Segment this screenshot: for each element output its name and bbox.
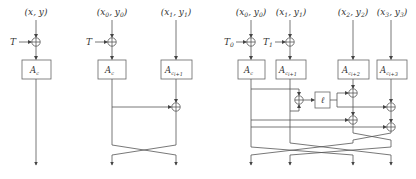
- xor-icon: [387, 123, 395, 131]
- input-label-x0y0: (x0, y0): [236, 7, 267, 18]
- linear-mix-label: ℓ: [321, 95, 325, 105]
- diagram-single-branch: (x, y) T Ac: [10, 7, 51, 165]
- diagram-four-branch: (x0, y0) (x1, y1) (x2, y2) (x3, y3) T0 T…: [224, 7, 408, 165]
- xor-icon: [247, 38, 255, 46]
- input-label-x1y1: (x1, y1): [161, 7, 192, 18]
- xor-icon: [349, 89, 357, 97]
- xor-icon: [286, 38, 294, 46]
- xor-icon: [349, 116, 357, 124]
- tweak-label-t0: T0: [224, 37, 234, 48]
- feistel-diagrams: (x, y) T Ac (x0, y0) (x1, y1) T Ac Aci+1: [0, 0, 416, 179]
- input-label-x1y1: (x1, y1): [276, 7, 307, 18]
- diagram-two-branch: (x0, y0) (x1, y1) T Ac Aci+1: [86, 7, 192, 165]
- input-label-x3y3: (x3, y3): [377, 7, 408, 18]
- tweak-label-t: T: [10, 37, 17, 47]
- tweak-label-t: T: [86, 37, 93, 47]
- xor-icon: [32, 38, 40, 46]
- xor-icon: [387, 103, 395, 111]
- tweak-label-t1: T1: [263, 37, 273, 48]
- xor-icon: [295, 96, 303, 104]
- xor-icon: [172, 103, 180, 111]
- input-label-x2y2: (x2, y2): [338, 7, 369, 18]
- input-label-xy: (x, y): [25, 7, 48, 17]
- xor-icon: [108, 38, 116, 46]
- input-label-x0y0: (x0, y0): [97, 7, 128, 18]
